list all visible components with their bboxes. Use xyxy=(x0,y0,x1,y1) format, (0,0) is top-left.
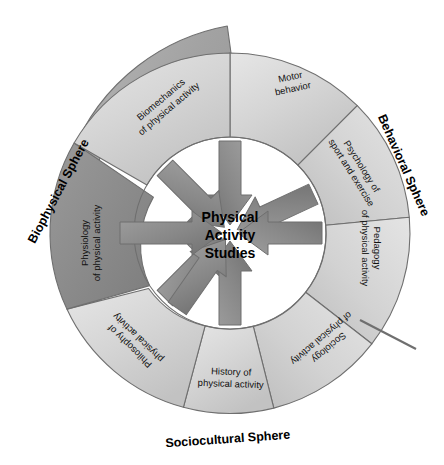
label-physiology-line2: of physical activity xyxy=(91,204,102,281)
center-title-line3: Studies xyxy=(205,245,256,261)
label-history-line2: physical activity xyxy=(198,377,265,390)
label-physiology-line1: Physiology xyxy=(79,220,90,266)
center-title-line1: Physical xyxy=(202,209,259,225)
sphere-label-sociocultural: Sociocultural Sphere xyxy=(165,428,291,451)
diagram-canvas: Biomechanics of physical activity Motor … xyxy=(0,0,444,465)
physical-activity-studies-diagram: Biomechanics of physical activity Motor … xyxy=(0,0,444,465)
label-history-line1: History of xyxy=(211,365,252,377)
label-pedagogy-line2: of physical activity xyxy=(360,210,371,287)
svg-text:Sociocultural Sphere: Sociocultural Sphere xyxy=(165,428,291,451)
center-title-line2: Activity xyxy=(205,227,256,243)
label-pedagogy-line1: Pedagogy xyxy=(372,227,383,270)
center-title: Physical Activity Studies xyxy=(202,209,259,261)
